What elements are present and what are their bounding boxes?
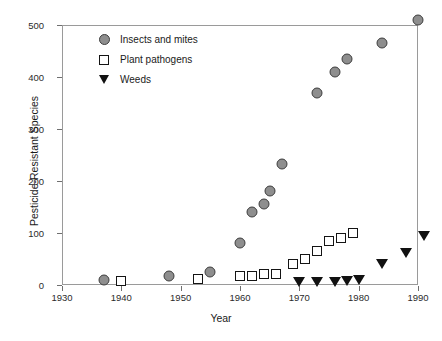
x-tick-label: 1930	[51, 292, 72, 303]
legend-label: Plant pathogens	[120, 54, 192, 65]
square-icon	[99, 55, 109, 65]
legend-label: Insects and mites	[120, 34, 198, 45]
data-point-circle	[258, 199, 269, 210]
data-point-triangle-down	[353, 275, 365, 285]
x-tick-label: 1960	[229, 292, 250, 303]
x-tick-mark	[181, 286, 182, 291]
data-point-square	[116, 276, 126, 286]
data-point-circle	[163, 271, 174, 282]
data-point-square	[247, 271, 257, 281]
x-tick-mark	[121, 286, 122, 291]
x-tick-label: 1950	[170, 292, 191, 303]
y-tick-label: 500	[28, 20, 44, 31]
x-tick-label: 1970	[289, 292, 310, 303]
y-tick-mark	[57, 181, 62, 182]
data-point-circle	[329, 66, 340, 77]
data-point-square	[300, 254, 310, 264]
data-point-triangle-down	[418, 231, 430, 241]
legend-item: Plant pathogens	[96, 51, 198, 68]
data-point-triangle-down	[311, 277, 323, 287]
data-point-circle	[312, 87, 323, 98]
data-point-circle	[377, 38, 388, 49]
legend-item: Insects and mites	[96, 31, 198, 48]
y-axis-title: Pesticide-Resistant Species	[28, 41, 40, 281]
scatter-chart: 0100200300400500 19301940195019601970198…	[0, 0, 442, 341]
x-tick-mark	[62, 286, 63, 291]
circle-icon	[99, 34, 110, 45]
data-point-square	[288, 259, 298, 269]
x-axis-title: Year	[0, 312, 442, 324]
data-point-square	[235, 271, 245, 281]
legend-item: Weeds	[96, 71, 198, 88]
data-point-circle	[264, 186, 275, 197]
data-point-triangle-down	[293, 277, 305, 287]
x-tick-mark	[418, 286, 419, 291]
data-point-square	[348, 228, 358, 238]
y-tick-mark	[57, 129, 62, 130]
data-point-square	[336, 233, 346, 243]
x-tick-label: 1980	[348, 292, 369, 303]
x-tick-mark	[240, 286, 241, 291]
data-point-square	[324, 236, 334, 246]
data-point-square	[259, 269, 269, 279]
data-point-circle	[205, 267, 216, 278]
legend-marker-square-icon	[96, 55, 112, 65]
chart-legend: Insects and mitesPlant pathogensWeeds	[96, 31, 198, 91]
legend-marker-triangle-down-icon	[96, 75, 112, 84]
data-point-square	[312, 246, 322, 256]
data-point-circle	[341, 53, 352, 64]
data-point-triangle-down	[400, 248, 412, 258]
data-point-square	[271, 269, 281, 279]
y-tick-label: 0	[39, 280, 44, 291]
data-point-triangle-down	[376, 259, 388, 269]
x-tick-label: 1990	[407, 292, 428, 303]
data-point-triangle-down	[341, 276, 353, 286]
y-tick-mark	[57, 25, 62, 26]
y-tick-mark	[57, 77, 62, 78]
data-point-circle	[98, 274, 109, 285]
data-point-circle	[276, 158, 287, 169]
data-point-triangle-down	[329, 277, 341, 287]
data-point-circle	[413, 14, 424, 25]
legend-marker-circle-icon	[96, 34, 112, 45]
data-point-circle	[246, 207, 257, 218]
triangle-down-icon	[99, 75, 109, 84]
data-point-circle	[235, 238, 246, 249]
y-tick-mark	[57, 233, 62, 234]
x-tick-mark	[359, 286, 360, 291]
data-point-square	[193, 274, 203, 284]
x-tick-label: 1940	[111, 292, 132, 303]
legend-label: Weeds	[120, 74, 151, 85]
